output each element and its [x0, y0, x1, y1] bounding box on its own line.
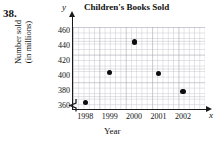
data-point [180, 89, 185, 94]
data-point [132, 39, 137, 44]
figure-root: 38. Children's Books Sold Number sold (i… [0, 0, 221, 146]
data-point [83, 100, 88, 105]
x-tick-label: 2002 [168, 112, 198, 121]
x-axis-label: Year [104, 126, 121, 136]
